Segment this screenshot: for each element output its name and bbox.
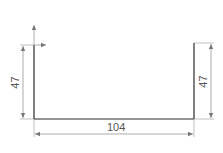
channel-profile[interactable] <box>34 43 194 119</box>
right-height-value[interactable]: 47 <box>198 75 209 87</box>
origin-axes <box>34 25 46 45</box>
left-height-value[interactable]: 47 <box>10 76 21 88</box>
bottom-width-value[interactable]: 104 <box>107 122 125 133</box>
left-height-dimension[interactable] <box>20 45 34 119</box>
